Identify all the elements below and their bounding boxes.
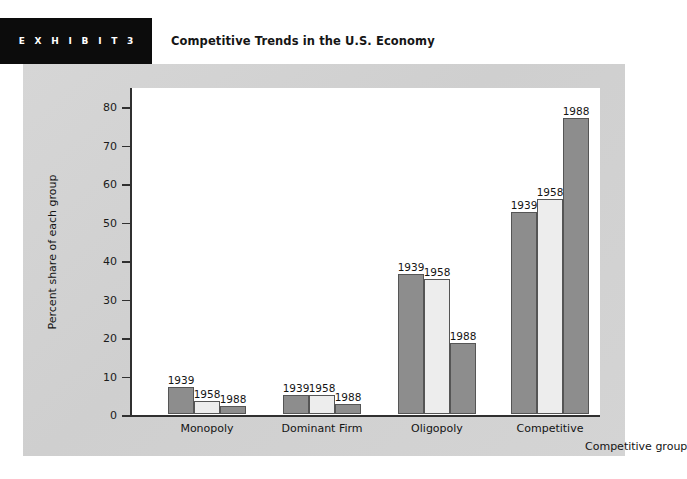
bar-value-label: 1958 [424, 266, 451, 278]
bar-group: 193919581988 [398, 274, 476, 414]
x-category-label: Monopoly [180, 422, 233, 435]
bar-slot: 1939 [398, 274, 424, 414]
y-tick-mark [122, 415, 130, 417]
bar [335, 404, 361, 414]
x-category-label: Competitive [517, 422, 584, 435]
bar-value-label: 1958 [194, 388, 221, 400]
exhibit-banner: E X H I B I T 3 [0, 18, 152, 64]
bar-value-label: 1939 [398, 261, 425, 273]
x-axis-title: Competitive group [585, 440, 687, 453]
bar-slot: 1939 [283, 395, 309, 414]
bar-group: 193919581988 [511, 118, 589, 414]
y-tick-label: 50 [103, 216, 117, 229]
bar-value-label: 1939 [283, 382, 310, 394]
bar-value-label: 1958 [309, 382, 336, 394]
y-tick-label: 80 [103, 101, 117, 114]
bar-slot: 1988 [335, 404, 361, 414]
bar [283, 395, 309, 414]
bar-slot: 1958 [424, 279, 450, 414]
chart-plot-area: Percent share of each group 010203040506… [130, 88, 600, 416]
y-tick-mark [122, 261, 130, 263]
bar-group: 193919581988 [168, 387, 246, 414]
bar-slot: 1988 [563, 118, 589, 414]
bar-slot: 1988 [220, 406, 246, 414]
bar [194, 401, 220, 414]
bar-value-label: 1958 [537, 186, 564, 198]
y-axis-title: Percent share of each group [46, 175, 59, 330]
y-axis [130, 88, 132, 416]
y-tick-label: 30 [103, 293, 117, 306]
y-tick-mark [122, 107, 130, 109]
y-tick-mark [122, 338, 130, 340]
bar [309, 395, 335, 414]
y-tick-label: 10 [103, 370, 117, 383]
bar-value-label: 1988 [450, 330, 477, 342]
y-tick-mark [122, 146, 130, 148]
y-tick-label: 60 [103, 178, 117, 191]
bar-group: 193919581988 [283, 395, 361, 414]
bar-value-label: 1988 [220, 393, 247, 405]
y-tick-mark [122, 300, 130, 302]
bar [168, 387, 194, 414]
bar-slot: 1939 [511, 212, 537, 414]
bar-slot: 1958 [537, 199, 563, 414]
bar [563, 118, 589, 414]
bar [511, 212, 537, 414]
bar-value-label: 1939 [168, 374, 195, 386]
y-tick-label: 70 [103, 139, 117, 152]
x-category-label: Oligopoly [411, 422, 463, 435]
y-tick-mark [122, 377, 130, 379]
bar [537, 199, 563, 414]
page-title: Competitive Trends in the U.S. Economy [171, 34, 435, 48]
bar [424, 279, 450, 414]
bar-slot: 1958 [309, 395, 335, 414]
bar [398, 274, 424, 414]
bar-slot: 1939 [168, 387, 194, 414]
y-tick-label: 40 [103, 255, 117, 268]
bar [220, 406, 246, 414]
y-tick-label: 0 [110, 409, 117, 422]
x-category-label: Dominant Firm [281, 422, 362, 435]
bar [450, 343, 476, 414]
bar-value-label: 1988 [335, 391, 362, 403]
exhibit-banner-label: E X H I B I T 3 [15, 36, 136, 46]
x-axis [130, 415, 600, 417]
y-tick-label: 20 [103, 332, 117, 345]
bar-value-label: 1988 [563, 105, 590, 117]
bar-value-label: 1939 [511, 199, 538, 211]
y-tick-mark [122, 184, 130, 186]
bar-slot: 1988 [450, 343, 476, 414]
y-tick-mark [122, 223, 130, 225]
bar-slot: 1958 [194, 401, 220, 414]
